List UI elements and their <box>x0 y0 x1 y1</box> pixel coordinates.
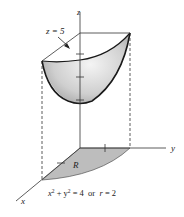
region-label: R <box>72 160 79 170</box>
plane-label: z = 5 <box>45 26 65 36</box>
top-edge-left <box>42 33 80 61</box>
region-r <box>42 148 130 180</box>
x-axis-label: x <box>20 196 25 206</box>
y-axis-label: y <box>170 143 175 153</box>
boundary-equation: x2 + y2 = 4 or r = 2 <box>47 188 116 198</box>
paraboloid-diagram: z z = 5 y x R x2 + y2 = 4 or r = 2 <box>0 0 184 217</box>
